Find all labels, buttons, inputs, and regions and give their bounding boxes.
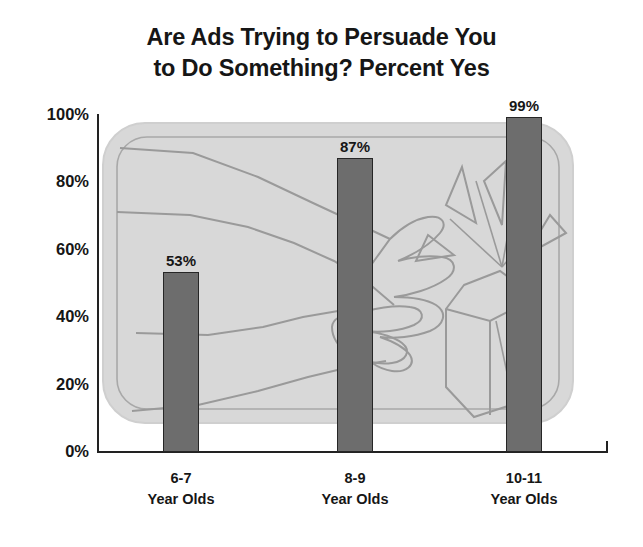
x-axis-end-tick [606,441,608,452]
y-tick-label-20: 20% [9,374,89,393]
bar-8-9-year-olds [337,158,373,452]
bar-label-10-11-year-olds: 99% [489,97,559,114]
bar-label-8-9-year-olds: 87% [320,138,390,155]
category-label-10-11-year-olds: 10-11 Year Olds [439,468,609,510]
category-label-8-9-year-olds: 8-9 Year Olds [270,468,440,510]
y-tick-label-0: 0% [9,442,89,461]
bar-10-11-year-olds [506,117,542,452]
y-tick-label-40: 40% [9,307,89,326]
bar-6-7-year-olds [163,272,199,452]
y-tick-label-100: 100% [9,105,89,124]
y-tick-label-80: 80% [9,172,89,191]
y-axis-line [97,114,99,453]
bar-label-6-7-year-olds: 53% [146,252,216,269]
y-tick-label-60: 60% [9,239,89,258]
category-label-6-7-year-olds: 6-7 Year Olds [96,468,266,510]
bar-chart: Are Ads Trying to Persuade You to Do Som… [0,0,643,547]
chart-title: Are Ads Trying to Persuade You to Do Som… [0,22,643,83]
